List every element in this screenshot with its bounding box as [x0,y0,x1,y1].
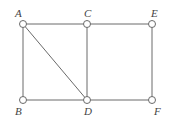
node-E [149,21,156,28]
node-label-C: C [84,7,92,19]
node-label-A: A [14,7,22,19]
node-B [20,97,27,104]
graph-diagram: ABCDEF [0,0,172,122]
node-F [149,97,156,104]
node-label-F: F [153,105,161,117]
edge-A-D [23,24,87,100]
node-label-E: E [150,7,158,19]
node-D [84,97,91,104]
node-A [20,21,27,28]
node-label-B: B [15,105,22,117]
node-label-D: D [83,105,92,117]
node-C [84,21,91,28]
